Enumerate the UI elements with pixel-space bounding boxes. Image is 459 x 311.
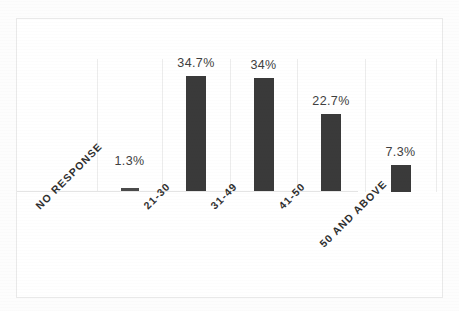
bar-value-label-50-and-above: 7.3% <box>385 145 415 159</box>
plot-area: 1.3% 34.7% 34% 22.7% 7.3% <box>97 59 437 192</box>
bar-value-label-no-response: 1.3% <box>114 154 144 168</box>
bar-value-label-31-49: 34% <box>250 58 276 72</box>
bar-column-41-50: 22.7% <box>297 59 365 192</box>
bar-column-21-30: 34.7% <box>162 59 230 192</box>
bar-value-label-41-50: 22.7% <box>312 94 349 108</box>
axis-label-no-response: NO RESPONSE <box>33 140 105 212</box>
chart-frame: 1.3% 34.7% 34% 22.7% 7.3% <box>16 18 443 298</box>
bar-value-label-21-30: 34.7% <box>177 56 214 70</box>
bar-41-50 <box>321 114 341 192</box>
bar-column-no-response: 1.3% <box>97 59 162 192</box>
category-axis-baseline <box>17 191 358 192</box>
bar-chart-image: 1.3% 34.7% 34% 22.7% 7.3% <box>0 0 459 311</box>
bar-21-30 <box>186 76 206 192</box>
bar-50-and-above <box>391 165 411 192</box>
bar-column-31-49: 34% <box>230 59 297 192</box>
bar-31-49 <box>254 78 274 192</box>
bar-column-50-and-above: 7.3% <box>365 59 436 192</box>
gridline-5 <box>436 59 437 192</box>
